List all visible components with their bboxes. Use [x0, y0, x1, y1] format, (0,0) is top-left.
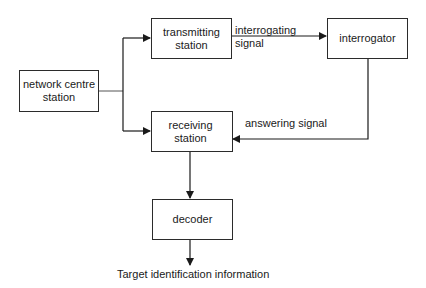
transmitting-station-box: transmitting station — [151, 18, 232, 59]
network-centre-label-line2: station — [23, 91, 95, 104]
decoder-label: decoder — [173, 213, 213, 226]
transmitting-label-line1: transmitting — [163, 26, 220, 39]
interrogating-label-line2: signal — [235, 37, 296, 50]
decoder-box: decoder — [152, 199, 233, 240]
network-centre-station-box: network centre station — [19, 70, 99, 112]
target-identification-output-label: Target identification information — [117, 268, 269, 281]
interrogating-label-line1: interrogating — [235, 24, 296, 37]
interrogating-signal-label: interrogating signal — [235, 24, 296, 50]
interrogator-label: interrogator — [339, 32, 395, 45]
answering-signal-label: answering signal — [245, 117, 327, 130]
receiving-station-label: receiving station — [152, 119, 229, 145]
receiving-station-box: receiving station — [151, 111, 233, 152]
interrogator-box: interrogator — [327, 18, 408, 59]
network-centre-label-line1: network centre — [23, 78, 95, 91]
transmitting-label-line2: station — [163, 39, 220, 52]
